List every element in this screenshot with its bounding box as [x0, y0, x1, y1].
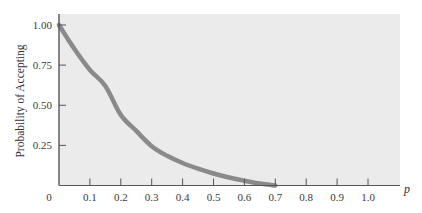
x-tick-label: 0.4 [176, 191, 190, 203]
y-tick-label: 0.25 [33, 139, 53, 151]
x-tick-label: 1.0 [361, 191, 375, 203]
plot-background [59, 14, 400, 186]
x-tick-label: 0.7 [268, 191, 282, 203]
x-tick-label: 0.1 [83, 191, 97, 203]
oc-chart: 0.10.20.30.40.50.60.70.80.91.0 0.250.500… [0, 0, 422, 213]
x-tick-label: 0.9 [330, 191, 344, 203]
origin-label: 0 [46, 191, 52, 203]
x-tick-label: 0.2 [114, 191, 128, 203]
x-tick-label: 0.3 [145, 191, 159, 203]
y-axis-title: Probability of Accepting [14, 44, 27, 157]
x-tick-label: 0.5 [207, 191, 221, 203]
x-tick-label: 0.6 [238, 191, 252, 203]
x-tick-label: 0.8 [299, 191, 313, 203]
y-tick-label: 0.50 [33, 99, 53, 111]
x-axis-title: p [403, 182, 410, 196]
y-tick-label: 0.75 [33, 59, 53, 71]
y-tick-label: 1.00 [33, 19, 53, 31]
